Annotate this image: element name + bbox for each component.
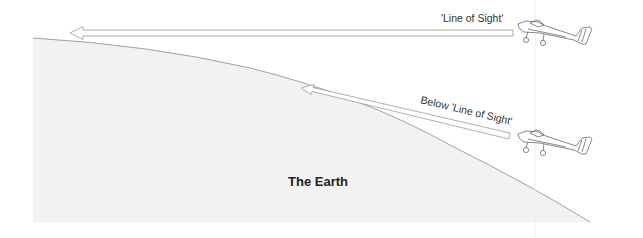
below-line-of-sight-label: Below 'Line of Sight' (420, 93, 514, 127)
upper-aircraft-icon (518, 20, 592, 46)
earth (33, 38, 590, 222)
line-of-sight-diagram: 'Line of Sight' Below 'Line of Sight' Th… (0, 0, 643, 238)
line-of-sight-label: 'Line of Sight' (441, 12, 503, 24)
earth-label: The Earth (288, 174, 348, 189)
lower-aircraft-icon (518, 130, 592, 156)
line-of-sight-arrow (70, 27, 513, 40)
